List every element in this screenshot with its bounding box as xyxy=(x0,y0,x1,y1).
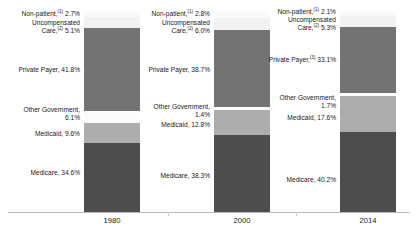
label-non-patient-2014: Non-patient,(1) 2.1% xyxy=(262,8,336,16)
label-other-government-line2-2014: 1.7% xyxy=(321,102,336,109)
label-uncompensated-care-1980: UncompensatedCare,(2) 5.1% xyxy=(4,19,80,35)
label-private-payer-value-2014: 33.1% xyxy=(315,56,336,63)
label-private-payer-text-2014: Private Payer, xyxy=(269,56,310,63)
chart-column-2000: Non-patient,(1) 2.8% UncompensatedCare,(… xyxy=(130,0,270,238)
label-uncompensated-care-2014: UncompensatedCare,(2) 5.3% xyxy=(262,16,336,32)
label-uncompensated-line2-2014: Care, xyxy=(297,24,313,31)
segment-medicaid-2014 xyxy=(340,96,396,131)
bar-2014 xyxy=(340,12,396,212)
label-uncompensated-line2-2000: Care, xyxy=(171,27,187,34)
x-axis-line xyxy=(8,212,410,213)
label-private-payer-1980: Private Payer, 41.8% xyxy=(0,66,80,74)
label-non-patient-value-2014: 2.1% xyxy=(319,8,336,15)
label-medicare-2000: Medicare, 38.3% xyxy=(132,172,210,180)
label-uncompensated-value-2014: 5.3% xyxy=(319,24,336,31)
label-uncompensated-line1-2014: Uncompensated xyxy=(288,16,336,23)
label-non-patient-1980: Non-patient,(1) 2.7% xyxy=(4,10,80,18)
chart-column-2014: Non-patient,(1) 2.1% UncompensatedCare,(… xyxy=(258,0,417,238)
stacked-bar-chart: Non-patient,(1) 2.7% UncompensatedCare,(… xyxy=(0,0,417,238)
label-non-patient-2000: Non-patient,(1) 2.8% xyxy=(134,10,210,18)
x-axis-label-1980: 1980 xyxy=(84,216,140,225)
label-medicaid-2000: Medicaid, 12.8% xyxy=(132,121,210,129)
label-other-government-1980: Other Government,6.1% xyxy=(2,106,80,122)
segment-uncompensated-care-2014 xyxy=(340,16,396,27)
label-uncompensated-care-2000: UncompensatedCare,(2) 6.0% xyxy=(134,19,210,35)
label-other-government-line1-2014: Other Government, xyxy=(280,94,336,101)
chart-column-1980: Non-patient,(1) 2.7% UncompensatedCare,(… xyxy=(0,0,140,238)
label-uncompensated-line1-1980: Uncompensated xyxy=(32,19,80,26)
label-medicaid-2014: Medicaid, 17.6% xyxy=(260,114,336,122)
label-non-patient-value-1980: 2.7% xyxy=(63,10,80,17)
label-other-government-2014: Other Government,1.7% xyxy=(260,94,336,110)
label-medicare-2014: Medicare, 40.2% xyxy=(260,176,336,184)
label-private-payer-2000: Private Payer, 38.7% xyxy=(130,66,210,74)
x-axis-tick-2 xyxy=(296,212,297,216)
label-non-patient-value-2000: 2.8% xyxy=(193,10,210,17)
x-axis-label-2014: 2014 xyxy=(340,216,396,225)
x-axis-tick-1 xyxy=(168,212,169,216)
label-medicaid-1980: Medicaid, 9.6% xyxy=(2,130,80,138)
label-non-patient-text-1980: Non-patient, xyxy=(22,10,58,17)
label-other-government-2000: Other Government,1.4% xyxy=(132,103,210,119)
label-non-patient-text-2000: Non-patient, xyxy=(152,10,188,17)
label-uncompensated-line2-1980: Care, xyxy=(41,27,57,34)
label-other-government-line2-2000: 1.4% xyxy=(195,111,210,118)
segment-private-payer-2014 xyxy=(340,27,396,93)
label-non-patient-text-2014: Non-patient, xyxy=(278,8,314,15)
label-other-government-line1-1980: Other Government, xyxy=(24,106,80,113)
label-other-government-line1-2000: Other Government, xyxy=(154,103,210,110)
label-private-payer-2014: Private Payer,(3) 33.1% xyxy=(258,56,336,64)
label-uncompensated-value-1980: 5.1% xyxy=(63,27,80,34)
label-uncompensated-value-2000: 6.0% xyxy=(193,27,210,34)
label-medicare-1980: Medicare, 34.6% xyxy=(2,169,80,177)
label-uncompensated-line1-2000: Uncompensated xyxy=(162,19,210,26)
x-axis-label-2000: 2000 xyxy=(214,216,270,225)
segment-medicare-2014 xyxy=(340,132,396,212)
label-other-government-line2-1980: 6.1% xyxy=(65,114,80,121)
